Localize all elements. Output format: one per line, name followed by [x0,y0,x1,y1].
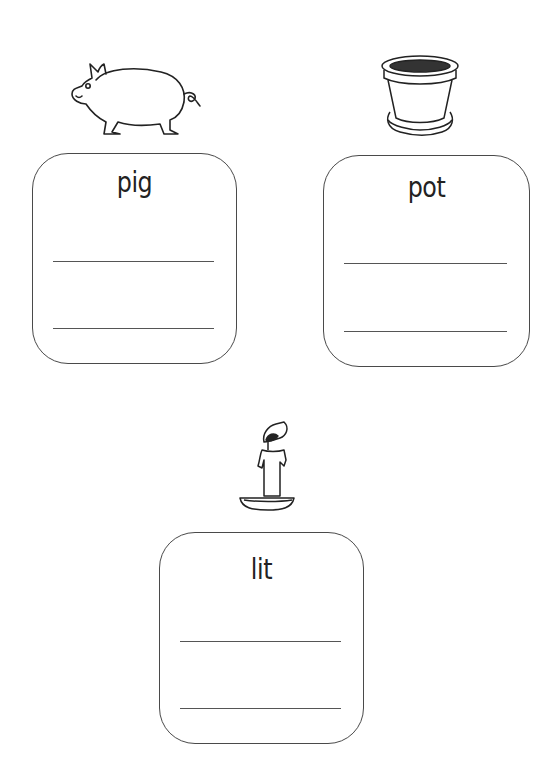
writing-line[interactable] [344,263,507,264]
writing-line[interactable] [180,641,341,642]
writing-line[interactable] [53,261,214,262]
pig-icon [66,60,204,140]
word-card-pot: pot [323,155,530,367]
writing-line[interactable] [344,331,507,332]
candle-icon [234,418,300,518]
writing-line[interactable] [180,708,341,709]
writing-line[interactable] [53,328,214,329]
word-label: lit [175,553,348,586]
word-card-lit: lit [159,532,364,744]
word-label: pot [339,171,513,204]
word-card-pig: pig [32,153,237,364]
flower-pot-icon [380,54,460,140]
word-label: pig [48,166,221,199]
